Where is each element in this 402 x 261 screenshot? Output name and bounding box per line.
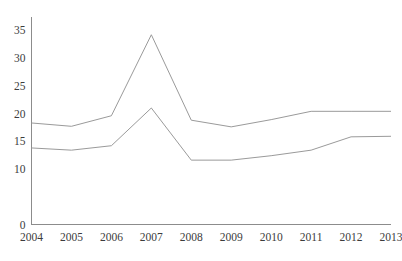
chart-canvas: 0101520253035 20042005200620072008200920… <box>0 0 402 261</box>
y-tick-label-35: 35 <box>14 24 26 36</box>
x-tick-label-2011: 2011 <box>300 231 323 243</box>
x-tick-label-2008: 2008 <box>180 231 203 243</box>
x-axis-tick-labels: 2004200520062007200820092010201120122013 <box>20 231 402 243</box>
y-tick-label-30: 30 <box>14 52 26 64</box>
x-tick-label-2007: 2007 <box>140 231 163 243</box>
series-line-upper-series <box>32 35 392 127</box>
series-line-lower-series <box>32 108 392 160</box>
x-tick-label-2006: 2006 <box>100 231 123 243</box>
x-tick-label-2004: 2004 <box>20 231 43 243</box>
x-tick-label-2013: 2013 <box>380 231 402 243</box>
x-tick-label-2005: 2005 <box>60 231 83 243</box>
x-tick-label-2012: 2012 <box>340 231 363 243</box>
y-tick-label-15: 15 <box>14 135 26 147</box>
data-series-group <box>32 35 392 160</box>
line-chart: 0101520253035 20042005200620072008200920… <box>0 0 402 261</box>
y-tick-label-0: 0 <box>20 219 26 231</box>
y-tick-label-25: 25 <box>14 80 26 92</box>
y-tick-label-10: 10 <box>14 163 26 175</box>
x-tick-label-2009: 2009 <box>220 231 243 243</box>
y-axis-tick-labels: 0101520253035 <box>14 24 26 230</box>
x-tick-label-2010: 2010 <box>260 231 283 243</box>
y-tick-label-20: 20 <box>14 108 26 120</box>
